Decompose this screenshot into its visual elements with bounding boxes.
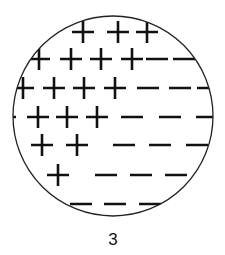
plus-sign	[56, 106, 78, 128]
plus-sign	[72, 21, 94, 43]
plus-sign	[27, 106, 49, 128]
plus-sign	[86, 106, 108, 128]
plus-sign	[60, 48, 82, 70]
plus-sign	[90, 48, 112, 70]
plus-sign	[136, 21, 158, 43]
plus-sign	[104, 77, 126, 99]
plus-sign	[73, 77, 95, 99]
plus-sign	[31, 134, 53, 156]
plus-sign	[107, 21, 129, 43]
charge-diagram: 3	[0, 0, 225, 255]
figure-label: 3	[108, 230, 117, 249]
plus-sign	[121, 48, 143, 70]
plus-sign	[66, 134, 88, 156]
plus-sign	[47, 164, 69, 186]
plus-sign	[43, 77, 65, 99]
